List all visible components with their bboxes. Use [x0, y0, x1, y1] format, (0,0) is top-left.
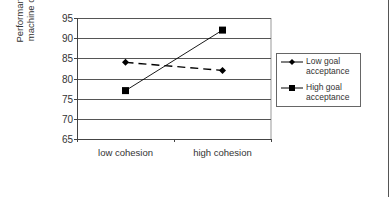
- y-tick-label: 65: [62, 134, 74, 145]
- y-tick-label: 85: [62, 53, 74, 64]
- y-tick-label: 80: [62, 74, 74, 85]
- square-marker-icon: [122, 87, 129, 94]
- gridlines: [77, 18, 271, 140]
- legend-item-low-goal: Low goal acceptance: [280, 56, 349, 76]
- y-tick-label: 95: [62, 13, 74, 24]
- x-tick-label: high cohesion: [193, 147, 252, 158]
- y-axis-label-line-1: Performance (% of: [14, 0, 25, 48]
- legend-label: High goal acceptance: [306, 82, 349, 102]
- y-tick-label: 70: [62, 114, 74, 125]
- data-series: [122, 27, 226, 95]
- frame-border: [388, 0, 389, 197]
- x-axis: low cohesionhigh cohesion: [78, 139, 272, 158]
- y-axis-label-line-2: machine capacity): [25, 0, 36, 48]
- legend-item-high-goal: High goal acceptance: [280, 82, 349, 102]
- diamond-marker-icon: [280, 56, 304, 68]
- y-axis-ticks: 65707580859095: [62, 13, 78, 145]
- y-axis-label: Performance (% of machine capacity): [14, 0, 44, 48]
- square-marker-icon: [219, 27, 226, 34]
- y-tick-label: 75: [62, 94, 74, 105]
- series-line: [126, 62, 223, 70]
- y-tick-label: 90: [62, 33, 74, 44]
- legend: Low goal acceptance High goal acceptance: [276, 53, 361, 107]
- diamond-marker-icon: [122, 59, 129, 66]
- square-marker-icon: [280, 82, 304, 94]
- legend-label: Low goal acceptance: [306, 56, 349, 76]
- x-tick-label: low cohesion: [98, 147, 153, 158]
- series-line: [126, 30, 223, 91]
- diamond-marker-icon: [219, 67, 226, 74]
